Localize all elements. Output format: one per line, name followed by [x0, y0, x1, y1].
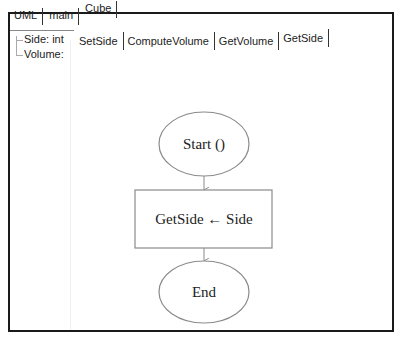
flowchart-canvas: Start () GetSide ← Side End	[0, 0, 402, 340]
process-label: GetSide ← Side	[155, 211, 253, 227]
start-label: Start ()	[183, 136, 225, 153]
end-node[interactable]: End	[159, 261, 249, 323]
process-node-box[interactable]: GetSide ← Side	[135, 190, 272, 248]
end-label: End	[192, 284, 217, 300]
start-node[interactable]: Start ()	[159, 112, 249, 176]
